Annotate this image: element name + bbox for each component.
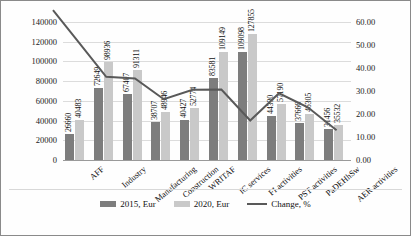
chart-figure: 020000400006000080000100000120000140000 … bbox=[0, 0, 411, 236]
y-axis-right-tick: 0.00 bbox=[356, 155, 408, 165]
y-axis-left-tick: 0 bbox=[1, 155, 57, 165]
legend-label: Change, % bbox=[271, 199, 311, 209]
y-axis-left-tick: 40000 bbox=[1, 116, 57, 126]
legend-swatch-marker bbox=[174, 201, 190, 207]
legend-label: 2015, Eur bbox=[120, 199, 156, 209]
y-axis-left-tick: 60000 bbox=[1, 96, 57, 106]
legend-line-marker bbox=[247, 203, 267, 205]
legend-item[interactable]: 2020, Eur bbox=[174, 199, 230, 209]
y-axis-left-tick: 120000 bbox=[1, 37, 57, 47]
gridline bbox=[63, 160, 351, 161]
change-line-series bbox=[63, 22, 351, 160]
legend-item[interactable]: 2015, Eur bbox=[100, 199, 156, 209]
y-axis-right-tick: 10.00 bbox=[356, 132, 408, 142]
chart-legend: 2015, Eur2020, EurChange, % bbox=[1, 199, 410, 209]
y-axis-left-tick: 80000 bbox=[1, 76, 57, 86]
legend-item[interactable]: Change, % bbox=[247, 199, 311, 209]
y-axis-right-tick: 50.00 bbox=[356, 40, 408, 50]
y-axis-right-tick: 60.00 bbox=[356, 17, 408, 27]
legend-divider bbox=[9, 189, 402, 190]
x-axis-label: Industry bbox=[119, 164, 147, 190]
x-axis-label: AER activities bbox=[355, 164, 400, 204]
y-axis-right-tick: 20.00 bbox=[356, 109, 408, 119]
legend-swatch-marker bbox=[100, 201, 116, 207]
y-axis-left-tick: 100000 bbox=[1, 56, 57, 66]
change-line-path bbox=[53, 10, 337, 130]
y-axis-left-tick: 20000 bbox=[1, 135, 57, 145]
y-axis-left-tick: 140000 bbox=[1, 17, 57, 27]
y-axis-right-tick: 40.00 bbox=[356, 63, 408, 73]
plot-area: 2666040483726499893667407913113870748946… bbox=[63, 22, 351, 160]
legend-label: 2020, Eur bbox=[194, 199, 230, 209]
x-axis-label: AFF bbox=[87, 164, 105, 182]
y-axis-right-tick: 30.00 bbox=[356, 86, 408, 96]
